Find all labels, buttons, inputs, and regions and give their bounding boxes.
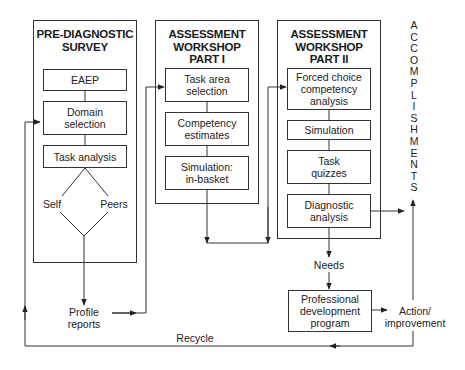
step-domain-selection: Domain selection [43,101,127,135]
stage3-title: ASSESSMENT WORKSHOP PART II [277,28,381,66]
accomplishments-letter: I [407,101,421,113]
accomplishments-letter: S [407,182,421,194]
step-task-analysis: Task analysis [43,145,127,168]
step-diagnostic-analysis: Diagnostic analysis [287,194,371,228]
stage2-title: ASSESSMENT WORKSHOP PART I [155,28,259,66]
stage-pre-diagnostic-survey [33,20,137,263]
accomplishments-letter: N [407,159,421,171]
step-task-area-selection: Task area selection [165,68,249,102]
accomplishments-letter: A [407,20,421,32]
profile-reports-label: Profile reports [64,306,104,330]
step-competency-estimates: Competency estimates [165,112,249,146]
branch-self: Self [40,198,64,210]
branch-peers: Peers [98,198,130,210]
step-task-quizzes: Task quizzes [287,150,371,184]
step-simulation: Simulation [287,120,371,140]
accomplishments-letter: M [407,136,421,148]
needs-label: Needs [309,259,349,271]
step-forced-choice-competency-analysis: Forced choice competency analysis [287,68,371,110]
step-eaep: EAEP [43,69,127,91]
action-improvement-label: Action/ improvement [384,305,446,329]
accomplishments-letter: P [407,78,421,90]
accomplishments-label: ACCOMPLISHMENTS [407,20,421,194]
stage1-title: PRE-DIAGNOSTIC SURVEY [33,28,137,53]
recycle-label: Recycle [170,332,220,344]
professional-development-program-box: Professional development program [288,290,372,332]
step-simulation-in-basket: Simulation: in-basket [165,156,249,190]
